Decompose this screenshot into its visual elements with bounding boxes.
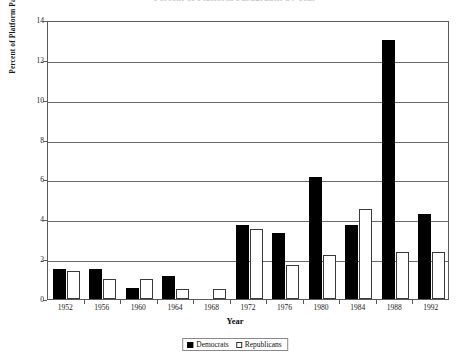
bar-group — [89, 22, 116, 299]
y-axis-tick-label: 10 — [0, 96, 44, 106]
bar-group — [126, 22, 153, 299]
x-axis-tick-mark — [303, 300, 304, 304]
bar-republicans — [213, 289, 226, 299]
bar-republicans — [140, 279, 153, 299]
x-axis-tick-mark — [193, 300, 194, 304]
x-axis-tick-mark — [120, 300, 121, 304]
y-axis-tick-label: 12 — [0, 56, 44, 66]
bar-republicans — [396, 252, 409, 299]
y-axis-tick-label: 6 — [0, 175, 44, 185]
bar-group — [418, 22, 445, 299]
bar-republicans — [359, 209, 372, 299]
y-axis-tick-label: 4 — [0, 215, 44, 225]
bar-democrats — [418, 214, 431, 299]
chart-container: Percent of Platform Paragraphs by Year P… — [0, 0, 470, 356]
y-axis-tick-label: 2 — [0, 255, 44, 265]
bar-republicans — [250, 229, 263, 299]
bar-group — [309, 22, 336, 299]
bar-republicans — [67, 271, 80, 299]
bar-democrats — [162, 276, 175, 299]
x-axis-tick-mark — [84, 300, 85, 304]
legend-label-democrats: Democrats — [196, 340, 229, 349]
bar-republicans — [323, 255, 336, 299]
bar-democrats — [309, 177, 322, 299]
bar-democrats — [236, 225, 249, 299]
legend: Democrats Republicans — [182, 338, 288, 351]
y-axis-tick-label: 8 — [0, 136, 44, 146]
bar-group — [272, 22, 299, 299]
y-axis-tick-label: 0 — [0, 295, 44, 305]
x-axis-tick-mark — [339, 300, 340, 304]
x-axis-tick-mark — [157, 300, 158, 304]
plot-area — [47, 21, 449, 300]
bar-republicans — [432, 252, 445, 299]
x-axis-tick-mark — [376, 300, 377, 304]
bar-group — [236, 22, 263, 299]
x-axis-tick-label: 1992 — [408, 303, 454, 312]
bar-democrats — [382, 40, 395, 299]
bar-republicans — [103, 279, 116, 299]
x-axis-title: Year — [0, 316, 470, 326]
legend-swatch-democrats-icon — [187, 342, 193, 348]
bar-group — [199, 22, 226, 299]
bar-democrats — [272, 233, 285, 299]
bar-group — [345, 22, 372, 299]
bar-republicans — [286, 265, 299, 299]
x-axis-tick-mark — [266, 300, 267, 304]
x-axis-tick-mark — [412, 300, 413, 304]
bar-democrats — [126, 288, 139, 299]
y-axis-tick-label: 14 — [0, 16, 44, 26]
y-axis-tick-mark — [43, 300, 47, 301]
bar-series-group — [48, 22, 448, 299]
bar-group — [53, 22, 80, 299]
legend-item-democrats: Democrats — [187, 340, 229, 349]
x-axis-tick-mark — [230, 300, 231, 304]
legend-swatch-republicans-icon — [236, 342, 242, 348]
bar-democrats — [345, 225, 358, 299]
legend-item-republicans: Republicans — [236, 340, 282, 349]
bar-group — [162, 22, 189, 299]
bar-democrats — [53, 269, 66, 299]
bar-democrats — [89, 269, 102, 299]
bar-group — [382, 22, 409, 299]
bar-republicans — [176, 289, 189, 299]
legend-label-republicans: Republicans — [245, 340, 282, 349]
chart-title: Percent of Platform Paragraphs by Year — [0, 0, 470, 1]
